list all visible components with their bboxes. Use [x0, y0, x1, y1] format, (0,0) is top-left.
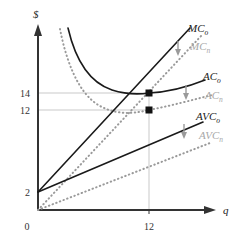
marker-min-ac-old: [146, 90, 153, 97]
curve-avc-old: [38, 122, 203, 192]
x-axis-label: q: [223, 204, 229, 216]
label-mc-new: MCn: [189, 40, 211, 55]
curve-ac-old: [68, 28, 205, 94]
label-mc-old: MCo: [187, 22, 209, 37]
origin-label: 0: [25, 221, 30, 232]
chart-canvas: $ q 14 12 2 12 0 MCo MCn ACo ACn AVCo AV…: [0, 0, 248, 238]
x-axis-arrowhead: [204, 206, 216, 214]
label-avc-old: AVCo: [195, 110, 220, 125]
label-ac-old: ACo: [202, 70, 221, 85]
label-ac-new: ACn: [204, 89, 223, 104]
tick-label-y-14: 14: [20, 88, 30, 99]
tick-label-y-12: 12: [20, 105, 30, 116]
y-axis-label: $: [33, 8, 39, 20]
marker-ac-new-at-12: [146, 107, 153, 114]
curve-avc-new: [38, 143, 210, 210]
tick-label-y-2: 2: [25, 187, 30, 198]
axes: [34, 24, 216, 214]
cost-curves-figure: $ q 14 12 2 12 0 MCo MCn ACo ACn AVCo AV…: [0, 0, 248, 238]
curve-mc-new: [38, 35, 202, 210]
y-axis-arrowhead: [34, 24, 42, 36]
label-avc-new: AVCn: [198, 129, 223, 144]
tick-label-x-12: 12: [144, 221, 154, 232]
